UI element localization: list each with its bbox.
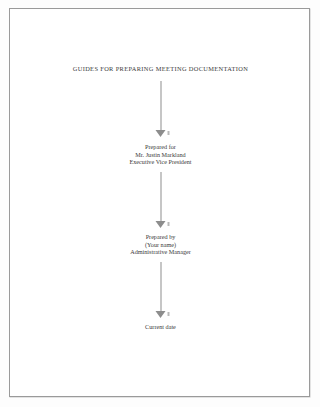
- scanned-page-surround: GUIDES FOR PREPARING MEETING DOCUMENTATI…: [0, 0, 320, 407]
- recipient-title: Executive Vice President: [10, 158, 311, 166]
- current-date-label: Current date: [10, 323, 311, 331]
- arrow-head-icon: [156, 130, 166, 137]
- arrow-connector-3: [154, 262, 167, 318]
- scan-speck: [168, 222, 170, 226]
- date-block: Current date: [10, 323, 311, 331]
- recipient-name: Mr. Justin Markland: [10, 151, 311, 159]
- author-title: Administrative Manager: [10, 248, 311, 256]
- arrow-connector-2: [154, 172, 167, 228]
- prepared-by-label: Prepared by: [10, 233, 311, 241]
- arrow-head-icon: [156, 311, 166, 318]
- page-frame: GUIDES FOR PREPARING MEETING DOCUMENTATI…: [9, 8, 310, 397]
- arrow-stem: [160, 81, 161, 130]
- arrow-connector-1: [154, 81, 167, 137]
- scan-speck: [168, 312, 170, 316]
- scan-speck: [168, 131, 170, 135]
- arrow-stem: [160, 172, 161, 221]
- author-name-placeholder: (Your name): [10, 241, 311, 249]
- prepared-for-label: Prepared for: [10, 143, 311, 151]
- arrow-head-icon: [156, 221, 166, 228]
- page-title: GUIDES FOR PREPARING MEETING DOCUMENTATI…: [10, 65, 311, 72]
- arrow-stem: [160, 262, 161, 311]
- prepared-for-block: Prepared for Mr. Justin Markland Executi…: [10, 143, 311, 166]
- page-content: GUIDES FOR PREPARING MEETING DOCUMENTATI…: [10, 9, 311, 398]
- prepared-by-block: Prepared by (Your name) Administrative M…: [10, 233, 311, 256]
